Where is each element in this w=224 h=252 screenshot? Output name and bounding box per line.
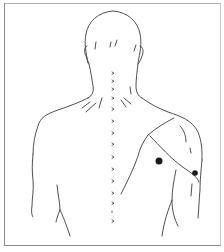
marked-point-2 <box>192 170 198 176</box>
marked-point-1 <box>156 158 163 165</box>
shoulder-region-outline <box>121 118 199 236</box>
spine-markers <box>112 72 114 222</box>
torso-outline <box>32 98 202 236</box>
back-anatomy-figure <box>0 0 224 252</box>
head-outline <box>85 11 143 64</box>
illustration-canvas: Line drawing of a human figure seen from… <box>0 0 224 252</box>
